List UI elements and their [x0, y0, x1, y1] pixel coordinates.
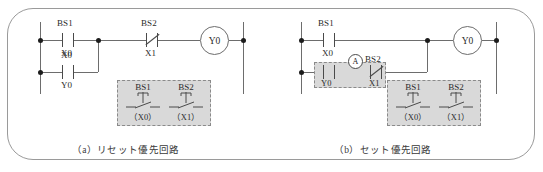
left-power-rail-a: [40, 22, 41, 94]
pushbutton-bs1-code-b: （X0）: [390, 110, 436, 122]
pushbutton-bs1-a: BS1 （X0）: [120, 82, 166, 122]
pushbutton-bs1-name-a: BS1: [120, 82, 166, 92]
rung1-wire-left-a: [40, 40, 62, 41]
caption-panel-b: （b）セット優先回路: [334, 142, 432, 156]
caption-panel-a: （a）リセット優先回路: [72, 142, 180, 156]
pushbutton-bs1-code-a: （X0）: [120, 110, 166, 122]
panel-a-reset-priority: BS1 X0 BS2 X1 Y0 X0 Y0 BS1 （X0）: [0, 0, 272, 172]
rung2-wire-left-a: [40, 72, 62, 73]
branch-riser-a: [98, 40, 99, 72]
rung1-wire-mid-b: [335, 40, 453, 41]
coil-y0-b[interactable]: Y0: [453, 26, 482, 55]
pushbutton-bs2-code-b: （X1）: [433, 110, 479, 122]
contact-y0-latch-a[interactable]: [62, 65, 74, 79]
junction-dot-rung2-a: [38, 70, 43, 75]
rung1-wire-right-a: [158, 40, 200, 41]
junction-dot-branch-b: [425, 38, 430, 43]
branch-riser-b: [427, 40, 428, 72]
latch-upper-label-a: X0: [61, 50, 72, 60]
contact-bs1-label-b: BS1: [318, 18, 334, 28]
contact-nc-slash-a: [145, 34, 159, 45]
contact-y0-latch-b[interactable]: [323, 65, 335, 79]
contact-bs1-x0-b[interactable]: [323, 33, 335, 47]
latch-y0-label-b: Y0: [321, 78, 331, 88]
left-power-rail-b: [301, 22, 302, 94]
right-power-rail-a: [243, 22, 244, 94]
right-power-rail-b: [496, 22, 497, 94]
contact-x1-code-b: X1: [369, 78, 379, 88]
pushbutton-bs1-name-b: BS1: [390, 82, 436, 92]
pushbutton-bs2-name-b: BS2: [433, 82, 479, 92]
coil-y0-a[interactable]: Y0: [200, 26, 229, 55]
contact-x1-code-a: X1: [145, 48, 156, 58]
annotation-marker-a-b: A: [348, 54, 363, 69]
contact-bs2-label-a: BS2: [141, 18, 157, 28]
ladder-diagram-figure: BS1 X0 BS2 X1 Y0 X0 Y0 BS1 （X0）: [0, 0, 543, 172]
contact-bs2-label-b: BS2: [365, 54, 381, 64]
junction-dot-rung2-b: [299, 70, 304, 75]
rung2-wire-right-a: [74, 72, 98, 73]
junction-dot-right-rail-b: [494, 38, 499, 43]
contact-bs2-x1-b[interactable]: [370, 65, 382, 79]
junction-dot-rung1-a: [38, 38, 43, 43]
rung1-wire-left-b: [301, 40, 323, 41]
junction-dot-branch-a: [96, 38, 101, 43]
contact-nc-slash-b: [369, 66, 383, 77]
contact-bs2-x1-a[interactable]: [146, 33, 158, 47]
junction-dot-right-rail-a: [241, 38, 246, 43]
pushbutton-bs2-code-a: （X1）: [163, 110, 209, 122]
junction-dot-rung1-b: [299, 38, 304, 43]
contact-x0-code-b: X0: [322, 48, 333, 58]
pushbutton-bs2-a: BS2 （X1）: [163, 82, 209, 122]
rung1-wire-mid-a: [74, 40, 146, 41]
contact-bs1-x0-a[interactable]: [62, 33, 74, 47]
pushbutton-bs2-b: BS2 （X1）: [433, 82, 479, 122]
pushbutton-bs2-name-a: BS2: [163, 82, 209, 92]
panel-b-set-priority: BS1 X0 Y0 A BS2 X1 Y0 BS1 （X0）: [272, 0, 543, 172]
contact-bs1-label-a: BS1: [57, 18, 73, 28]
pushbutton-bs1-b: BS1 （X0）: [390, 82, 436, 122]
latch-lower-label-a: Y0: [61, 80, 72, 90]
